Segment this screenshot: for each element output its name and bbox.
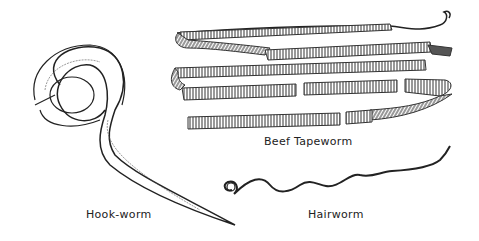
hairworm-label: Hairworm [308,208,364,221]
hairworm-drawing [225,146,450,194]
tapeworm-label: Beef Tapeworm [264,135,353,148]
tapeworm-drawing [171,11,452,129]
hookworm-label: Hook-worm [86,208,152,221]
worm-illustration [0,0,479,241]
